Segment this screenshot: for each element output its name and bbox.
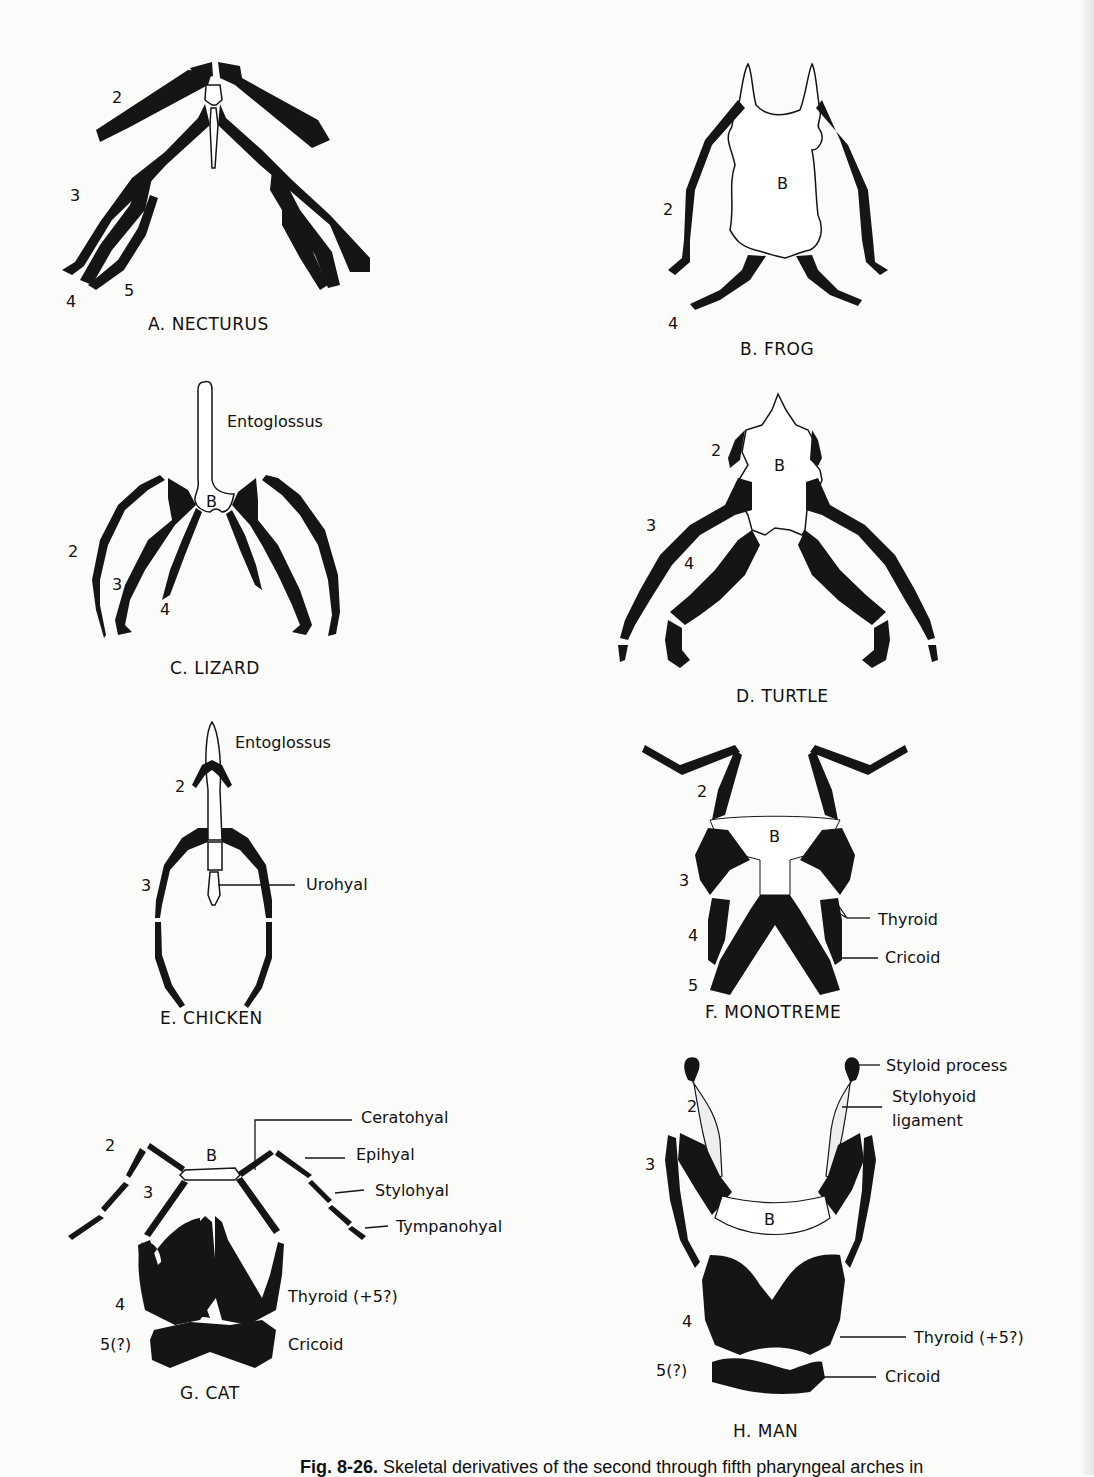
panel-title: A. NECTURUS: [148, 316, 269, 333]
styloid-process-label: Styloid process: [886, 1058, 1007, 1074]
leader-stylohyal: [335, 1190, 364, 1193]
basihyal-label: B: [769, 829, 780, 845]
arch-label: 5(?): [100, 1337, 131, 1353]
panel-title: E. CHICKEN: [160, 1010, 263, 1027]
ceratohyal-label: Ceratohyal: [361, 1110, 448, 1126]
arch-label: 2: [175, 779, 185, 795]
thyroid-label: Thyroid: [878, 912, 938, 928]
basihyal-label: B: [206, 494, 217, 510]
man-styloid-right: [845, 1057, 860, 1082]
page-edge-shadow: [1080, 0, 1094, 1475]
arch-label: 2: [663, 202, 673, 218]
epihyal-label: Epihyal: [356, 1147, 415, 1163]
frog-hyoid-body: [728, 64, 822, 258]
turtle-arch3-tip-right: [928, 645, 938, 662]
frog-arch4-left: [690, 255, 766, 310]
turtle-arch4-tip-right: [862, 620, 890, 668]
arch-label: 2: [68, 544, 78, 560]
monotreme-arch2-right-upper: [810, 745, 908, 775]
cricoid-label: Cricoid: [885, 1369, 940, 1385]
stylohyoid-label: Stylohyoid: [892, 1089, 976, 1105]
arch-label: 3: [143, 1185, 153, 1201]
cat-arch2-left: [68, 1143, 185, 1240]
arch-label: 3: [70, 188, 80, 204]
arch-label: 4: [688, 928, 698, 944]
arch-label: 4: [682, 1314, 692, 1330]
figure-caption: Fig. 8-26. Skeletal derivatives of the s…: [300, 1458, 923, 1476]
arch-label: 3: [645, 1157, 655, 1173]
cricoid-label: Cricoid: [288, 1337, 343, 1353]
chicken-entoglossus: [206, 722, 222, 840]
tympanohyal-label: Tympanohyal: [396, 1219, 502, 1235]
chicken-drawing: [155, 722, 272, 1008]
panel-title: B. FROG: [740, 341, 814, 358]
frog-arch2-right: [816, 100, 888, 275]
panel-title: H. MAN: [733, 1423, 798, 1440]
monotreme-arch2-left-upper: [642, 745, 740, 775]
arch-label: 2: [711, 443, 721, 459]
chicken-arch3-lower: [155, 922, 272, 1008]
lizard-arch2-left: [92, 475, 165, 638]
arch-label: 5: [688, 978, 698, 994]
cricoid-label: Cricoid: [885, 950, 940, 966]
arch-label: 3: [112, 577, 122, 593]
panel-title: D. TURTLE: [736, 688, 828, 705]
lizard-arch4-left: [162, 508, 202, 600]
arch-label: 2: [697, 784, 707, 800]
turtle-arch3-tip-left: [618, 645, 628, 662]
cat-cricoid: [150, 1320, 276, 1368]
basihyal-label: B: [206, 1148, 217, 1164]
arch-label: 3: [646, 518, 656, 534]
frog-arch4-right: [796, 255, 862, 306]
leader-tympanohyal: [365, 1226, 388, 1228]
arch-label: 4: [668, 316, 678, 332]
arch-label: 4: [160, 602, 170, 618]
arch-label: 2: [112, 90, 122, 106]
turtle-arch4-tip-left: [665, 620, 690, 668]
basihyal-label: B: [777, 176, 788, 192]
cat-basihyal: [180, 1168, 240, 1180]
arch-label: 3: [141, 878, 151, 894]
arch-label: 5(?): [656, 1363, 687, 1379]
cat-ceratohyal-right: [238, 1150, 274, 1177]
panel-title: C. LIZARD: [170, 660, 260, 677]
monotreme-thyroid: [710, 895, 840, 995]
caption-text: Skeletal derivatives of the second throu…: [383, 1457, 923, 1477]
necturus-arch4-right: [270, 170, 340, 288]
man-styloid-left: [684, 1057, 699, 1082]
arch-label: 4: [684, 556, 694, 572]
basihyal-label: B: [774, 458, 785, 474]
cat-arch3-right: [236, 1177, 280, 1234]
arch-label: 3: [679, 873, 689, 889]
arch-label: 5: [124, 283, 134, 299]
turtle-arch2-right: [810, 430, 822, 466]
figure-number: Fig. 8-26.: [300, 1457, 378, 1477]
man-cricoid: [712, 1358, 825, 1394]
panel-title: F. MONOTREME: [705, 1004, 841, 1021]
stylohyal-label: Stylohyal: [375, 1183, 449, 1199]
arch-label: 2: [687, 1099, 697, 1115]
arch-label: 4: [115, 1297, 125, 1313]
thyroid-label: Thyroid (+5?): [914, 1330, 1024, 1346]
ligament-label: ligament: [892, 1113, 963, 1129]
necturus-drawing: [62, 62, 370, 290]
thyroid-label: Thyroid (+5?): [288, 1289, 398, 1305]
urohyal-label: Urohyal: [306, 877, 368, 893]
chicken-basihyal: [208, 842, 222, 905]
man-thyroid: [702, 1255, 845, 1355]
panel-title: G. CAT: [180, 1385, 240, 1402]
arch-label: 2: [105, 1138, 115, 1154]
turtle-drawing: [618, 394, 938, 668]
basihyal-label: B: [764, 1212, 775, 1228]
cat-arch2-right: [275, 1150, 366, 1240]
leader-ceratohyal: [255, 1120, 352, 1170]
arch-label: 4: [66, 294, 76, 310]
entoglossus-label: Entoglossus: [227, 414, 323, 430]
entoglossus-label: Entoglossus: [235, 735, 331, 751]
